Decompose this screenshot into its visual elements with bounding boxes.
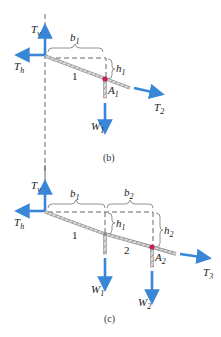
label-segment-1: 1 bbox=[72, 70, 78, 82]
label-W1: W1 bbox=[91, 120, 104, 135]
hanger-1 bbox=[104, 80, 107, 98]
label-b2: b2 bbox=[124, 186, 134, 201]
cable-free-body-diagrams: b1 h1 1 A1 Tv Th T2 W1 (b) b1 bbox=[0, 0, 221, 337]
label-T2: T2 bbox=[154, 101, 164, 116]
brace-h2 bbox=[156, 213, 163, 247]
label-segment-2: 2 bbox=[124, 244, 130, 256]
label-b1: b1 bbox=[70, 187, 80, 202]
label-h1: h1 bbox=[116, 217, 126, 232]
label-W1: W1 bbox=[91, 283, 104, 298]
panel-c: b1 b2 h1 h2 1 2 A2 Tv Th T3 W1 W2 ( bbox=[14, 165, 213, 325]
force-T3-arrow bbox=[180, 254, 208, 258]
label-h1: h1 bbox=[116, 62, 126, 77]
label-Tv: Tv bbox=[31, 23, 41, 38]
attachment-point-A2 bbox=[149, 244, 154, 249]
label-h2: h2 bbox=[164, 224, 174, 239]
label-Th: Th bbox=[14, 216, 24, 231]
force-T2-arrow bbox=[134, 88, 161, 94]
label-A1: A1 bbox=[107, 84, 119, 99]
label-Tv: Tv bbox=[31, 179, 41, 194]
label-segment-1: 1 bbox=[72, 229, 78, 241]
attachment-point-A1 bbox=[102, 76, 107, 81]
label-T3: T3 bbox=[203, 266, 213, 281]
caption-b: (b) bbox=[103, 152, 115, 164]
hanger-1 bbox=[104, 235, 107, 254]
junction-point-1 bbox=[103, 232, 107, 236]
label-b1: b1 bbox=[70, 31, 80, 46]
brace-b2 bbox=[107, 200, 153, 208]
hanger-2 bbox=[151, 248, 154, 267]
label-A2: A2 bbox=[154, 251, 166, 266]
brace-h1 bbox=[108, 213, 115, 234]
label-W2: W2 bbox=[138, 296, 151, 311]
label-Th: Th bbox=[14, 60, 24, 75]
brace-h1 bbox=[108, 59, 115, 79]
panel-b: b1 h1 1 A1 Tv Th T2 W1 (b) bbox=[14, 14, 164, 172]
caption-c: (c) bbox=[104, 313, 115, 325]
